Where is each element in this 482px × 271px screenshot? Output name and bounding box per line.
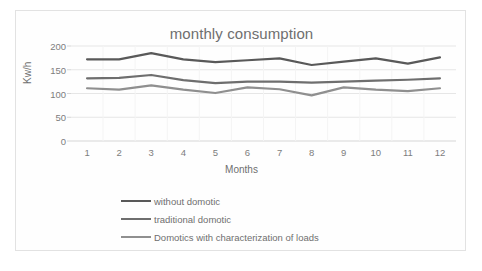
chart-container: monthly consumption Kw/h Months 05010015…: [15, 10, 466, 251]
x-axis-tick-label: 11: [395, 147, 421, 158]
legend-item-label: Domotics with characterization of loads: [154, 232, 319, 243]
x-axis-tick-label: 8: [299, 147, 325, 158]
y-axis-tick-label: 100: [32, 88, 66, 99]
legend-color-swatch: [121, 218, 151, 220]
x-axis-tick-label: 3: [138, 147, 164, 158]
x-axis-tick-label: 7: [267, 147, 293, 158]
x-axis-tick-label: 9: [331, 147, 357, 158]
legend-item-label: without domotic: [154, 196, 220, 207]
legend-item[interactable]: Domotics with characterization of loads: [121, 228, 451, 246]
legend-color-swatch: [121, 236, 151, 238]
legend-item-label: traditional domotic: [154, 214, 231, 225]
x-axis-tick-label: 5: [202, 147, 228, 158]
x-axis-tick-label: 1: [74, 147, 100, 158]
x-axis-tick-label: 2: [106, 147, 132, 158]
x-axis-tick-label: 10: [363, 147, 389, 158]
x-axis-tick-label: 12: [427, 147, 453, 158]
legend-item[interactable]: without domotic: [121, 192, 451, 210]
chart-legend: without domotictraditional domoticDomoti…: [121, 192, 451, 246]
legend-color-swatch: [121, 200, 151, 202]
x-axis-title: Months: [16, 164, 467, 175]
y-axis-tick-label: 0: [32, 136, 66, 147]
legend-item[interactable]: traditional domotic: [121, 210, 451, 228]
y-axis-tick-label: 150: [32, 64, 66, 75]
y-axis-tick-label: 200: [32, 41, 66, 52]
y-axis-tick-label: 50: [32, 112, 66, 123]
x-axis-tick-label: 6: [234, 147, 260, 158]
x-axis-tick-label: 4: [170, 147, 196, 158]
